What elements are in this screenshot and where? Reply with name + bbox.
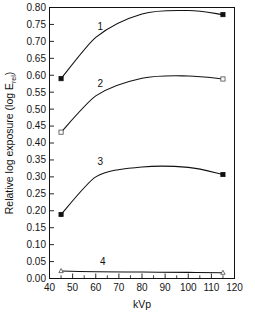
y-tick-label: 0.15: [27, 222, 47, 233]
y-tick-label: 0.50: [27, 104, 47, 115]
y-tick-label: 0.25: [27, 188, 47, 199]
y-tick-label: 0.60: [27, 70, 47, 81]
series-label-4: 4: [100, 256, 106, 267]
x-tick-label: 120: [226, 282, 243, 293]
data-point-marker: [221, 77, 225, 81]
y-tick-label: 0.10: [27, 239, 47, 250]
y-axis-title-suffix: ): [3, 72, 15, 76]
x-axis-title: kVp: [133, 298, 151, 310]
y-tick-label: 0.05: [27, 256, 47, 267]
data-point-marker: [59, 212, 63, 216]
x-axis-tick-labels: 405060708090100110120: [44, 282, 243, 293]
x-tick-label: 50: [67, 282, 79, 293]
x-tick-label: 60: [90, 282, 102, 293]
y-tick-label: 0.40: [27, 137, 47, 148]
x-tick-label: 70: [113, 282, 125, 293]
x-tick-label: 110: [203, 282, 219, 293]
y-tick-label: 0.75: [27, 19, 47, 30]
svg-text:Relative log exposure (log Ere: Relative log exposure (log Erel): [3, 72, 17, 215]
series-label-1: 1: [98, 21, 104, 32]
data-point-marker: [221, 172, 225, 176]
y-tick-label: 0.35: [27, 154, 47, 165]
x-tick-label: 100: [180, 282, 197, 293]
x-tick-label: 90: [160, 282, 172, 293]
y-axis-tick-labels: 0.000.050.100.150.200.250.300.350.400.45…: [27, 2, 47, 284]
y-axis-title-main: Relative log exposure (log E: [3, 83, 15, 214]
y-tick-label: 0.80: [27, 2, 47, 13]
data-point-marker: [59, 130, 63, 134]
y-tick-label: 0.70: [27, 36, 47, 47]
y-tick-label: 0.30: [27, 171, 47, 182]
line-chart: 0.000.050.100.150.200.250.300.350.400.45…: [0, 0, 255, 318]
y-tick-label: 0.20: [27, 205, 47, 216]
y-tick-label: 0.45: [27, 120, 47, 131]
y-tick-label: 0.65: [27, 53, 47, 64]
series-label-2: 2: [98, 78, 104, 89]
series-label-3: 3: [98, 156, 104, 167]
x-tick-label: 80: [136, 282, 148, 293]
chart-container: 0.000.050.100.150.200.250.300.350.400.45…: [0, 0, 255, 318]
x-tick-label: 40: [44, 282, 56, 293]
y-tick-label: 0.55: [27, 87, 47, 98]
y-axis-title: Relative log exposure (log Erel): [3, 72, 17, 215]
data-point-marker: [59, 77, 63, 81]
data-point-marker: [221, 13, 225, 17]
